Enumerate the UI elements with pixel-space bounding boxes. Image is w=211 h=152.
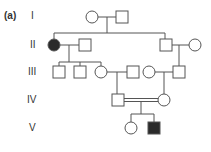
female-symbol <box>125 122 137 134</box>
male-symbol <box>74 66 86 78</box>
male-symbol <box>127 66 139 78</box>
female-symbol <box>189 39 201 51</box>
male-symbol <box>79 39 91 51</box>
male-symbol <box>112 94 124 106</box>
male-symbol <box>53 66 65 78</box>
male-symbol <box>173 66 185 78</box>
affected-male-symbol <box>148 122 160 134</box>
female-symbol <box>86 11 98 23</box>
male-symbol <box>116 11 128 23</box>
pedigree-chart <box>0 0 211 152</box>
female-symbol <box>95 66 107 78</box>
affected-female-symbol <box>48 39 60 51</box>
female-symbol <box>158 94 170 106</box>
female-symbol <box>143 66 155 78</box>
male-symbol <box>160 39 172 51</box>
